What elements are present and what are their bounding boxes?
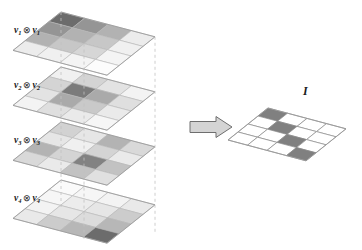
layer-vector-right: v4 <box>32 193 39 203</box>
otimes-icon: ⊗ <box>21 80 32 90</box>
layer-label-1: v1⊗v1 <box>14 26 40 37</box>
layer-vector-right: v3 <box>32 135 39 145</box>
otimes-icon: ⊗ <box>21 135 32 145</box>
layer-vector-right: v1 <box>32 25 39 35</box>
layer-label-2: v2⊗v2 <box>14 81 40 92</box>
identity-matrix <box>228 108 346 161</box>
layer-vector-right: v2 <box>32 80 39 90</box>
layer-label-3: v3⊗v3 <box>14 136 40 147</box>
otimes-icon: ⊗ <box>21 193 32 203</box>
otimes-icon: ⊗ <box>21 25 32 35</box>
implies-arrow <box>190 117 232 138</box>
identity-label: I <box>303 85 308 97</box>
figure-canvas <box>0 0 362 250</box>
outer-product-sum-figure: v1⊗v1v2⊗v2v3⊗v3v4⊗v4I <box>0 0 362 250</box>
layer-label-4: v4⊗v4 <box>14 194 40 205</box>
